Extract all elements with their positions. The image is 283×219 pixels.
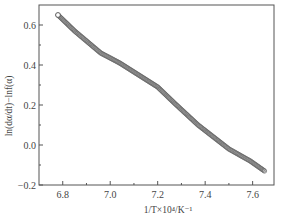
y-tick-label: −0.2 [18,180,36,191]
y-tick-label: 0.0 [24,140,37,151]
x-tick-label: 7.0 [104,189,117,200]
chart: 6.87.07.27.47.6 −0.20.00.20.40.6 1/T×10⁴… [0,0,283,219]
x-tick-label: 7.4 [199,189,212,200]
x-tick-label: 7.6 [246,189,259,200]
y-tick-label: 0.6 [24,20,37,31]
x-axis-title: 1/T×10⁴/K⁻¹ [144,205,193,215]
data-series [56,13,267,174]
y-tick-label: 0.2 [24,100,37,111]
x-axis: 6.87.07.27.47.6 [56,181,258,200]
y-axis-title: ln(dα/dt)−lnf(α) [4,76,15,137]
x-tick-label: 6.8 [56,189,69,200]
y-tick-label: 0.4 [24,60,37,71]
y-axis: −0.20.00.20.40.6 [18,20,43,191]
x-tick-label: 7.2 [151,189,164,200]
